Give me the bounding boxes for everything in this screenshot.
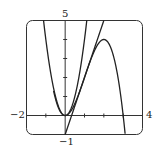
graph bbox=[0, 0, 158, 152]
x-min-label: −2 bbox=[10, 110, 25, 120]
y-min-label: −1 bbox=[59, 137, 74, 147]
cubic-curve bbox=[54, 40, 126, 134]
y-max-label: 5 bbox=[62, 9, 68, 19]
x-max-label: 4 bbox=[146, 110, 152, 120]
